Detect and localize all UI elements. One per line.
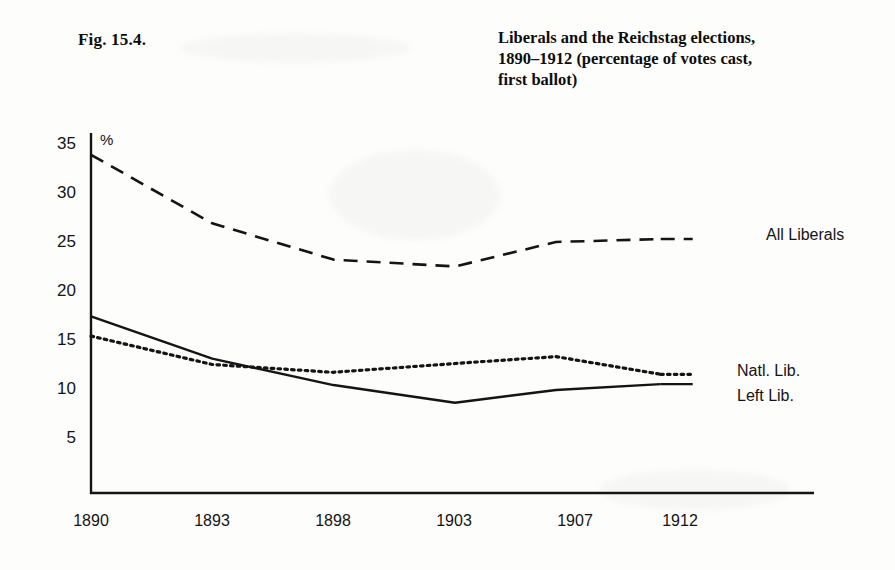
chart-canvas: [0, 0, 895, 570]
series-line-natl-lib: [91, 336, 661, 374]
axis-lines: [90, 133, 814, 494]
figure-page: Fig. 15.4. Liberals and the Reichstag el…: [0, 0, 895, 570]
series-line-all-liberals: [91, 155, 661, 267]
series-layer: [91, 155, 693, 403]
